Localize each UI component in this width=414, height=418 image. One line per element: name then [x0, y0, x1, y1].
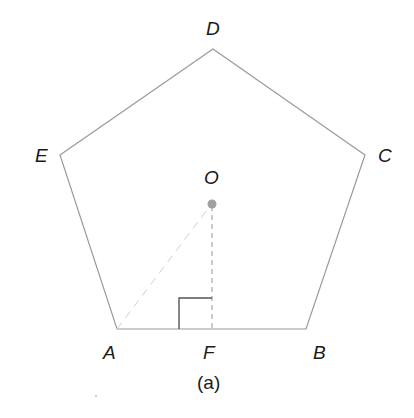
figure-caption: (a)	[197, 372, 220, 393]
label-e: E	[35, 145, 48, 166]
label-d: D	[206, 18, 220, 39]
center-point-o	[208, 200, 217, 209]
label-b: B	[313, 342, 326, 363]
right-angle-marker	[179, 298, 212, 329]
label-f: F	[203, 342, 216, 363]
segment-oa	[117, 206, 210, 329]
label-a: A	[102, 342, 116, 363]
label-o: O	[204, 167, 219, 188]
label-c: C	[378, 145, 392, 166]
stray-dot	[95, 395, 97, 397]
pentagon-diagram: D E C O A F B (a)	[0, 0, 414, 418]
